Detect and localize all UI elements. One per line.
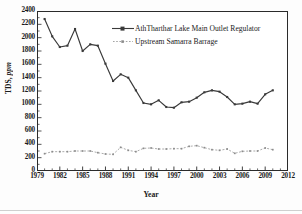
y-tick-label: 1000 bbox=[21, 101, 35, 108]
x-tick-label: 1994 bbox=[144, 173, 158, 180]
x-tick-label: 1982 bbox=[53, 173, 67, 180]
x-tick-label: 2003 bbox=[213, 173, 227, 180]
legend-label-aththarthar: AthTharthar Lake Main Outlet Regulator bbox=[134, 24, 260, 33]
y-tick-label: 1600 bbox=[21, 61, 35, 68]
y-tick-label: 1800 bbox=[21, 47, 35, 54]
legend-marker-aththarthar-icon bbox=[112, 24, 134, 33]
x-tick-label: 2012 bbox=[281, 173, 295, 180]
x-tick-label: 1979 bbox=[30, 173, 44, 180]
x-tick-label: 1991 bbox=[121, 173, 135, 180]
x-tick-label: 2009 bbox=[258, 173, 272, 180]
y-tick-label: 2200 bbox=[21, 21, 35, 28]
page-divider bbox=[0, 210, 302, 211]
y-tick-label: 800 bbox=[25, 114, 35, 121]
legend-label-samarra: Upstream Samarra Barrage bbox=[134, 37, 218, 46]
x-tick-label: 1988 bbox=[99, 173, 113, 180]
x-axis-title: Year bbox=[0, 190, 302, 199]
x-tick-label: 1997 bbox=[167, 173, 181, 180]
y-tick-label: 200 bbox=[25, 154, 35, 161]
chart-legend: AthTharthar Lake Main Outlet Regulator U… bbox=[112, 22, 260, 48]
x-tick-label: 2006 bbox=[236, 173, 250, 180]
y-tick-label: 2400 bbox=[21, 7, 35, 14]
y-tick-label: 2000 bbox=[21, 34, 35, 41]
legend-marker-samarra-icon bbox=[112, 37, 134, 46]
y-tick-label: 1400 bbox=[21, 74, 35, 81]
series-upstream-samarra-barrage bbox=[44, 145, 274, 155]
figure-container: TDS, ppm 0200400600800100012001400160018… bbox=[0, 0, 302, 214]
legend-item-0: AthTharthar Lake Main Outlet Regulator bbox=[112, 22, 260, 35]
y-tick-label: 400 bbox=[25, 141, 35, 148]
x-tick-label: 2000 bbox=[190, 173, 204, 180]
y-tick-label: 600 bbox=[25, 127, 35, 134]
x-axis-tick-labels: 1979198219851988199119941997200020032006… bbox=[0, 173, 302, 189]
y-tick-label: 1200 bbox=[21, 87, 35, 94]
legend-item-1: Upstream Samarra Barrage bbox=[112, 35, 260, 48]
tds-line-chart: TDS, ppm 0200400600800100012001400160018… bbox=[0, 0, 302, 214]
x-tick-label: 1985 bbox=[76, 173, 90, 180]
